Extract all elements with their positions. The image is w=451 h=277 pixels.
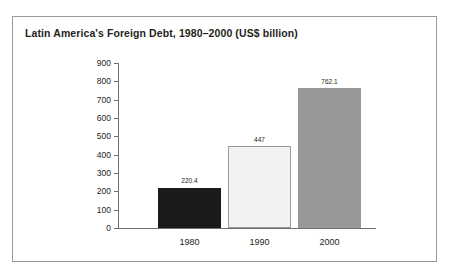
y-tick-label: 800 [97,77,111,86]
y-tick-label: 200 [97,187,111,196]
y-tick-mark [114,118,118,119]
x-axis-line [118,228,376,229]
bar-2000[interactable] [298,88,361,228]
y-tick-mark [114,81,118,82]
y-tick-label: 500 [97,132,111,141]
y-tick-mark [114,100,118,101]
chart-title: Latin America's Foreign Debt, 1980–2000 … [25,27,298,39]
plot-area: 0100200300400500600700800900 220.4447762… [118,63,376,228]
bar-value-label-1980: 220.4 [158,178,221,185]
y-tick-mark [114,210,118,211]
y-tick-mark [114,155,118,156]
y-tick-mark [114,228,118,229]
y-tick-label: 400 [97,150,111,159]
y-tick-mark [114,63,118,64]
y-axis-line [118,63,119,228]
y-tick-mark [114,136,118,137]
bar-value-label-1990: 447 [228,137,291,144]
y-tick-label: 100 [97,205,111,214]
bar-value-label-2000: 762.1 [298,79,361,86]
x-axis-label-2000: 2000 [298,238,361,247]
y-tick-label: 0 [106,224,111,233]
x-axis-label-1980: 1980 [158,238,221,247]
y-tick-label: 700 [97,95,111,104]
y-tick-label: 900 [97,59,111,68]
y-tick-label: 600 [97,114,111,123]
chart-figure: Latin America's Foreign Debt, 1980–2000 … [12,16,437,262]
y-tick-label: 300 [97,169,111,178]
bar-1980[interactable] [158,188,221,228]
y-tick-mark [114,173,118,174]
y-tick-mark [114,191,118,192]
x-axis-label-1990: 1990 [228,238,291,247]
bar-1990[interactable] [228,146,291,228]
